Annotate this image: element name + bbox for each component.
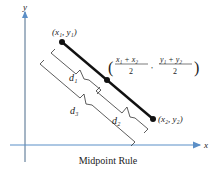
d1-label: d₁ xyxy=(69,72,77,83)
x-axis-label: x xyxy=(203,140,208,150)
point-1-label: (x₁, y₁) xyxy=(52,27,77,37)
d2-label: d₂ xyxy=(112,115,121,126)
figure-caption: Midpoint Rule xyxy=(0,155,216,166)
point-2-label: (x₂, y₂) xyxy=(158,114,183,124)
brace-d3 xyxy=(40,60,135,146)
midpoint-y-denominator: 2 xyxy=(173,67,177,76)
midpoint-rule-figure: y x (x₁, y₁) (x₂, y₂) d₁ d₂ d₃ ( x₁ + x₂ xyxy=(0,0,216,174)
point-2-dot xyxy=(150,116,156,122)
d3-label: d₃ xyxy=(70,105,79,116)
midpoint-x-numerator: x₁ + x₂ xyxy=(115,55,138,64)
midpoint-formula: ( x₁ + x₂ 2 , y₁ + y₂ 2 ) xyxy=(108,55,199,77)
midpoint-dot xyxy=(104,77,110,83)
svg-text:(: ( xyxy=(108,59,113,77)
svg-text:): ) xyxy=(194,59,199,77)
y-axis-label: y xyxy=(22,2,27,12)
svg-text:,: , xyxy=(151,61,153,70)
point-1-dot xyxy=(59,39,65,45)
midpoint-x-denominator: 2 xyxy=(129,67,133,76)
midpoint-y-numerator: y₁ + y₂ xyxy=(159,55,182,64)
